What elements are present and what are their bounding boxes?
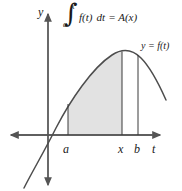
integral-formula: ∫ x a f(t) dt = A(x) (62, 4, 137, 33)
tick-label-a: a (63, 143, 69, 155)
integrand-expression: f(t) (79, 12, 92, 23)
t-axis-label: t (152, 143, 155, 155)
integral-area-figure: ∫ x a f(t) dt = A(x) y t a x b y = f(t) (0, 0, 182, 191)
tick-label-x: x (118, 143, 123, 155)
integral-lower-limit: a (63, 21, 67, 29)
integral-sign-group: ∫ x a (62, 4, 76, 30)
differential-dt: dt (96, 12, 105, 23)
equals-sign: = (109, 12, 115, 23)
tick-label-b: b (134, 143, 140, 155)
y-axis-label: y (38, 6, 43, 18)
integral-expression: ∫ x a f(t) dt = A(x) (62, 4, 137, 30)
integral-upper-limit: x (71, 3, 75, 11)
area-function-result: A(x) (118, 12, 137, 23)
curve-label: y = f(t) (141, 41, 169, 51)
